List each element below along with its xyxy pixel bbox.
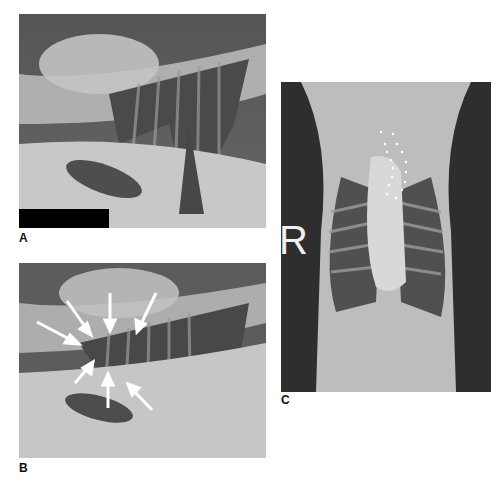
panel-label-c: C — [281, 393, 290, 407]
lateral-xray-image-b — [19, 263, 266, 458]
radiograph-panel-c: R — [281, 82, 491, 392]
panel-label-a: A — [19, 231, 28, 245]
lateral-xray-image-a — [19, 14, 266, 228]
redaction-bar — [19, 209, 109, 228]
right-side-marker: R — [281, 218, 308, 262]
panel-label-b: B — [19, 461, 28, 475]
radiograph-panel-a — [19, 14, 266, 228]
ventrodorsal-xray-image-c: R — [281, 82, 491, 392]
radiograph-panel-b — [19, 263, 266, 458]
